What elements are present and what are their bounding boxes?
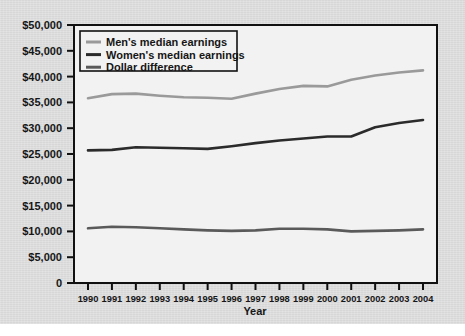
y-tick-label: $25,000	[22, 148, 62, 160]
x-tick-label: 1997	[245, 294, 266, 304]
y-axis-ticks	[67, 25, 74, 283]
x-tick-label: 1993	[149, 294, 170, 304]
x-tick-label: 2003	[389, 294, 410, 304]
chart-legend: Men's median earningsWomen's median earn…	[80, 31, 245, 73]
x-tick-label: 1995	[197, 294, 218, 304]
x-tick-label: 2000	[317, 294, 338, 304]
y-tick-label: $5,000	[28, 251, 62, 263]
x-tick-label: 1990	[78, 294, 99, 304]
legend-label: Women's median earnings	[106, 49, 245, 61]
x-tick-label: 2002	[365, 294, 386, 304]
y-tick-label: 0	[56, 277, 62, 289]
x-axis-ticks	[88, 283, 423, 290]
y-tick-label: $30,000	[22, 122, 62, 134]
y-tick-label: $45,000	[22, 45, 62, 57]
line-chart: 0$5,000$10,000$15,000$20,000$25,000$30,0…	[0, 0, 465, 324]
x-axis-tick-labels: 1990199119921993199419951996199719981999…	[78, 294, 435, 304]
x-tick-label: 2001	[341, 294, 362, 304]
y-tick-label: $50,000	[22, 19, 62, 31]
y-tick-label: $35,000	[22, 96, 62, 108]
x-tick-label: 2004	[413, 294, 435, 304]
chart-figure: 0$5,000$10,000$15,000$20,000$25,000$30,0…	[0, 0, 465, 324]
y-tick-label: $20,000	[22, 174, 62, 186]
legend-label: Dollar difference	[106, 61, 193, 73]
y-tick-label: $15,000	[22, 200, 62, 212]
y-tick-label: $40,000	[22, 71, 62, 83]
x-tick-label: 1999	[293, 294, 314, 304]
legend-label: Men's median earnings	[106, 36, 227, 48]
x-tick-label: 1994	[173, 294, 195, 304]
x-tick-label: 1991	[102, 294, 123, 304]
x-axis-title: Year	[243, 305, 267, 317]
x-tick-label: 1998	[269, 294, 290, 304]
x-tick-label: 1996	[221, 294, 242, 304]
figure-bottom-margin	[0, 324, 465, 336]
y-tick-label: $10,000	[22, 225, 62, 237]
y-axis-tick-labels: 0$5,000$10,000$15,000$20,000$25,000$30,0…	[22, 19, 62, 289]
x-tick-label: 1992	[126, 294, 147, 304]
